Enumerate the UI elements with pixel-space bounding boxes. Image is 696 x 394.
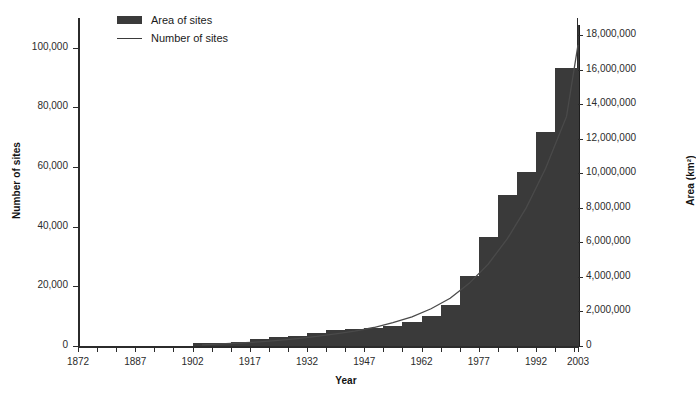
x-tick-1962 — [422, 347, 423, 352]
plot-area: 020,00040,00060,00080,000100,00002,000,0… — [78, 18, 578, 346]
x-ticklabel-1932: 1932 — [296, 356, 318, 367]
x-ticklabel-1902: 1902 — [181, 356, 203, 367]
line-path — [202, 45, 578, 345]
y-right-tick-14000000 — [578, 104, 583, 105]
y-axis-right-title: Area (km²) — [685, 121, 696, 241]
x-tick-1982 — [498, 347, 499, 352]
x-ticklabel-2003: 2003 — [567, 356, 589, 367]
x-tick-1877 — [97, 347, 98, 352]
y-right-ticklabel-14000000: 14,000,000 — [586, 98, 676, 108]
x-tick-1897 — [173, 347, 174, 352]
y-right-ticklabel-8000000: 8,000,000 — [586, 202, 676, 212]
x-ticklabel-1887: 1887 — [124, 356, 146, 367]
x-tick-1932 — [307, 347, 308, 352]
x-tick-1987 — [517, 347, 518, 352]
x-tick-1942 — [345, 347, 346, 352]
x-tick-1882 — [116, 347, 117, 352]
y-right-ticklabel-2000000: 2,000,000 — [586, 305, 676, 315]
y-right-ticklabel-6000000: 6,000,000 — [586, 236, 676, 246]
y-left-tick-100000 — [73, 48, 78, 49]
x-ticklabel-1992: 1992 — [525, 356, 547, 367]
y-right-ticklabel-16000000: 16,000,000 — [586, 64, 676, 74]
x-tick-1922 — [269, 347, 270, 352]
x-tick-1997 — [555, 347, 556, 352]
x-ticklabel-1872: 1872 — [67, 356, 89, 367]
x-tick-1887 — [135, 347, 136, 352]
x-tick-1992 — [536, 347, 537, 352]
y-left-tick-20000 — [73, 286, 78, 287]
y-right-tick-6000000 — [578, 242, 583, 243]
y-left-ticklabel-40000: 40,000 — [0, 221, 68, 231]
y-left-ticklabel-20000: 20,000 — [0, 280, 68, 290]
y-right-tick-8000000 — [578, 208, 583, 209]
y-left-tick-80000 — [73, 107, 78, 108]
x-axis-title: Year — [0, 375, 692, 386]
x-tick-1907 — [212, 347, 213, 352]
x-tick-1947 — [364, 347, 365, 352]
x-ticklabel-1977: 1977 — [468, 356, 490, 367]
y-right-tick-2000000 — [578, 311, 583, 312]
x-ticklabel-1917: 1917 — [239, 356, 261, 367]
x-tick-1902 — [193, 347, 194, 352]
y-left-ticklabel-100000: 100,000 — [0, 42, 68, 52]
x-tick-1967 — [441, 347, 442, 352]
x-tick-1912 — [231, 347, 232, 352]
x-tick-2003 — [578, 347, 579, 352]
x-tick-2002 — [574, 347, 575, 352]
y-right-tick-12000000 — [578, 139, 583, 140]
x-tick-1927 — [288, 347, 289, 352]
y-right-tick-18000000 — [578, 35, 583, 36]
y-right-ticklabel-0: 0 — [586, 340, 676, 350]
x-axis-spine — [78, 346, 578, 348]
bar-2003 — [578, 25, 580, 346]
y-right-tick-16000000 — [578, 70, 583, 71]
y-right-ticklabel-10000000: 10,000,000 — [586, 167, 676, 177]
x-ticklabel-1962: 1962 — [410, 356, 432, 367]
y-right-tick-10000000 — [578, 173, 583, 174]
y-left-tick-60000 — [73, 167, 78, 168]
y-right-ticklabel-18000000: 18,000,000 — [586, 29, 676, 39]
y-left-ticklabel-60000: 60,000 — [0, 161, 68, 171]
x-tick-1957 — [402, 347, 403, 352]
y-left-ticklabel-0: 0 — [0, 340, 68, 350]
y-right-ticklabel-4000000: 4,000,000 — [586, 271, 676, 281]
x-tick-1972 — [460, 347, 461, 352]
x-tick-1917 — [250, 347, 251, 352]
y-left-ticklabel-80000: 80,000 — [0, 101, 68, 111]
x-tick-1892 — [154, 347, 155, 352]
x-tick-1977 — [479, 347, 480, 352]
x-ticklabel-1947: 1947 — [353, 356, 375, 367]
y-right-ticklabel-12000000: 12,000,000 — [586, 133, 676, 143]
x-tick-1952 — [383, 347, 384, 352]
line-series-number-of-sites — [78, 18, 578, 346]
x-tick-1872 — [78, 347, 79, 352]
y-right-tick-4000000 — [578, 277, 583, 278]
x-tick-1937 — [326, 347, 327, 352]
y-left-tick-40000 — [73, 227, 78, 228]
